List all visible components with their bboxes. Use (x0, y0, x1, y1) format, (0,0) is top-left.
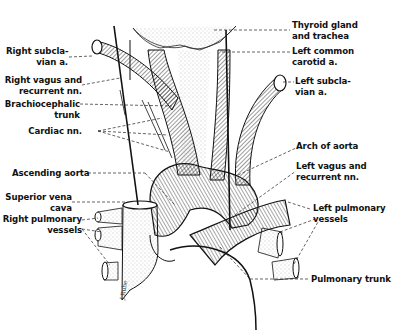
label-right-subclavian: Right subcla- vian a. (6, 46, 68, 68)
label-line: vian a. (295, 87, 351, 98)
label-line: Right subcla- (6, 46, 68, 57)
label-line: Brachiocephalic (2, 99, 80, 110)
label-pulmonary-trunk: Pulmonary trunk (311, 274, 391, 285)
label-left-pulmonary-vessels: Left pulmonary vessels (313, 203, 386, 225)
label-superior-vena-cava: Superior vena cava (2, 192, 72, 214)
label-line: Left vagus and (296, 161, 367, 172)
left-subclavian-artery (235, 78, 284, 185)
label-ascending-aorta: Ascending aorta (12, 168, 90, 179)
label-line: carotid a. (292, 57, 354, 68)
label-line: cava (2, 203, 72, 214)
label-line: recurrent nn. (296, 172, 367, 183)
label-line: Left subcla- (295, 76, 351, 87)
label-left-vagus: Left vagus and recurrent nn. (296, 161, 367, 183)
label-arch-of-aorta: Arch of aorta (296, 141, 358, 152)
label-line: Thyroid gland (292, 20, 358, 31)
label-line: vian a. (6, 57, 68, 68)
label-right-pulmonary-vessels: Right pulmonary vessels (2, 214, 82, 236)
label-line: Right pulmonary (2, 214, 82, 225)
label-brachiocephalic-trunk: Brachiocephalic trunk (2, 99, 80, 121)
label-line: Ascending aorta (12, 168, 90, 179)
label-right-vagus: Right vagus and recurrent nn. (2, 75, 82, 97)
left-pulmonary-vessels (258, 228, 299, 280)
label-line: vessels (2, 225, 82, 236)
anatomy-figure: J.Ruhe Right subcla- vian a. Right vagus… (0, 0, 393, 333)
label-thyroid-trachea: Thyroid gland and trachea (292, 20, 358, 42)
label-left-common-carotid: Left common carotid a. (292, 46, 354, 68)
label-line: Arch of aorta (296, 141, 358, 152)
label-line: Left common (292, 46, 354, 57)
label-line: trunk (2, 110, 80, 121)
label-line: Left pulmonary (313, 203, 386, 214)
label-line: Pulmonary trunk (311, 274, 391, 285)
label-line: Cardiac nn. (20, 126, 82, 137)
thyroid-gland (133, 26, 236, 50)
label-cardiac-nerves: Cardiac nn. (20, 126, 82, 137)
label-line: vessels (313, 214, 386, 225)
label-line: Right vagus and (2, 75, 82, 86)
label-line: Superior vena (2, 192, 72, 203)
label-left-subclavian: Left subcla- vian a. (295, 76, 351, 98)
label-line: recurrent nn. (2, 86, 82, 97)
label-line: and trachea (292, 31, 358, 42)
right-pulmonary-vessels (95, 208, 122, 280)
